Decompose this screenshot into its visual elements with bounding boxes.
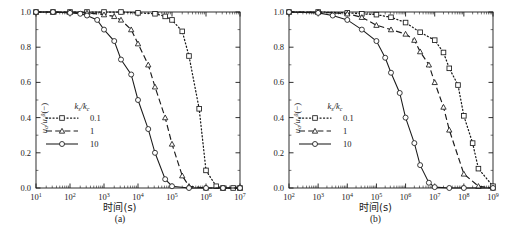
legend-label: 0.1 (343, 113, 354, 123)
y-tick-label: 0.8 (273, 42, 284, 52)
y-tick-label: 1.0 (20, 7, 31, 17)
panel-caption-a: (a) (5, 214, 235, 224)
series-10 (34, 10, 243, 191)
y-tick-label: 0.0 (273, 183, 284, 193)
y-tick-label: 0.6 (273, 77, 284, 87)
legend-label: 10 (90, 139, 99, 149)
legend-item-0.1: 0.1 (299, 113, 354, 123)
y-tick-label: 0.6 (20, 77, 31, 87)
chart-panel-b: ua/ua0(−) 1021031041051061071081090.00.2… (253, 0, 506, 235)
legend-title: ks/kc (328, 101, 343, 112)
legend-title: ks/kc (75, 101, 90, 112)
legend: ks/kc0.1110 (46, 101, 101, 149)
series-10 (287, 10, 496, 191)
x-axis-label-b: 时间(s) (258, 199, 493, 214)
y-tick-label: 1.0 (273, 7, 284, 17)
legend: ks/kc0.1110 (299, 101, 354, 149)
y-tick-label: 0.2 (20, 148, 31, 158)
series-0.1 (287, 10, 496, 189)
legend-label: 1 (343, 126, 347, 136)
y-tick-label: 0.0 (20, 183, 31, 193)
series-1 (286, 9, 495, 190)
x-tick-label: 107 (234, 192, 246, 202)
legend-item-10: 10 (46, 139, 99, 149)
legend-label: 10 (343, 139, 352, 149)
y-tick-label: 0.4 (20, 113, 31, 123)
legend-item-1: 1 (299, 126, 347, 136)
y-tick-label: 0.2 (273, 148, 284, 158)
legend-item-0.1: 0.1 (46, 113, 101, 123)
chart-panel-a: ua/ua0(−) 1011021031041051061070.00.20.4… (0, 0, 253, 235)
legend-item-10: 10 (299, 139, 352, 149)
y-tick-label: 0.8 (20, 42, 31, 52)
legend-label: 0.1 (90, 113, 101, 123)
legend-item-1: 1 (46, 126, 94, 136)
panel-caption-b: (b) (258, 214, 493, 224)
x-axis-label-a: 时间(s) (5, 199, 235, 214)
legend-label: 1 (90, 126, 94, 136)
y-tick-label: 0.4 (273, 113, 284, 123)
figure-container: ua/ua0(−) 1011021031041051061070.00.20.4… (0, 0, 507, 235)
